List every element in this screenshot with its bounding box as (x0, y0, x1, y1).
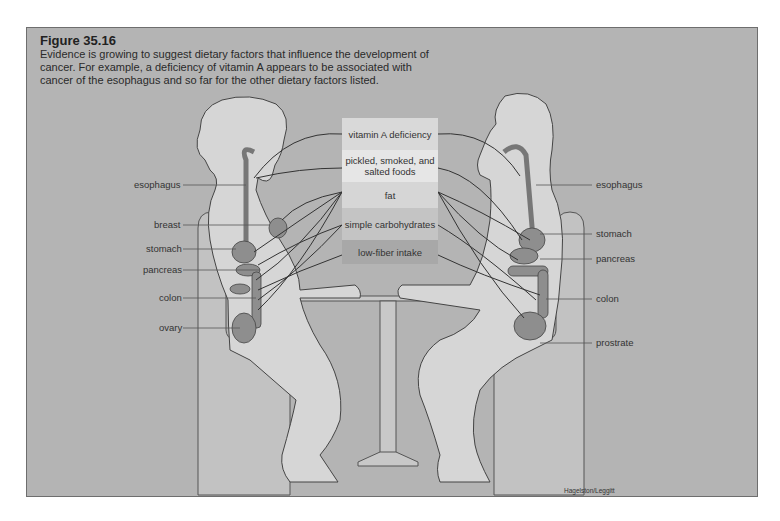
factor-simple-carbohydrates: simple carbohydrates (342, 208, 438, 240)
label-left-stomach: stomach (146, 243, 182, 254)
pancreas-organ-right (510, 248, 538, 264)
label-left-ovary: ovary (159, 322, 182, 333)
label-left-breast: breast (154, 219, 180, 230)
label-right-stomach: stomach (596, 228, 632, 239)
label-left-pancreas: pancreas (143, 264, 182, 275)
prostate-organ (514, 312, 546, 340)
factor-vitamin-a: vitamin A deficiency (342, 118, 438, 150)
label-left-esophagus: esophagus (134, 179, 180, 190)
label-right-esophagus: esophagus (596, 179, 642, 190)
colon-left-organ (230, 284, 250, 294)
colon-organ-right (538, 270, 548, 318)
dietary-factors-list: vitamin A deficiency pickled, smoked, an… (342, 118, 438, 264)
label-right-colon: colon (596, 293, 619, 304)
factor-low-fiber: low-fiber intake (342, 240, 438, 264)
factor-fat: fat (342, 182, 438, 208)
label-right-prostrate: prostrate (596, 337, 634, 348)
label-left-colon: colon (159, 292, 182, 303)
factor-pickled-foods: pickled, smoked, and salted foods (342, 150, 438, 182)
illustration-credit: Hagelston/Leggitt (564, 487, 615, 494)
label-right-pancreas: pancreas (596, 253, 635, 264)
stomach-organ (232, 241, 256, 263)
